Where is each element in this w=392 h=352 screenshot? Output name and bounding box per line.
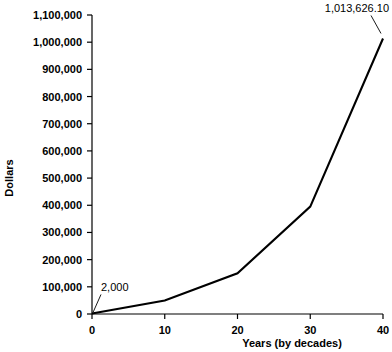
line-chart: 0100,000200,000300,000400,000500,000600,… [0, 0, 392, 352]
y-tick-label: 1,100,000 [33, 9, 82, 21]
start-value-annotation: 2,000 [101, 281, 129, 293]
y-axis-title: Dollars [3, 159, 15, 196]
x-tick-label: 40 [377, 324, 389, 336]
y-tick-label: 1,000,000 [33, 36, 82, 48]
y-tick-label: 800,000 [42, 91, 82, 103]
x-tick-label: 30 [304, 324, 316, 336]
x-tick-label: 0 [89, 324, 95, 336]
x-axis-title: Years (by decades) [242, 337, 342, 349]
y-tick-label: 600,000 [42, 145, 82, 157]
y-tick-label: 700,000 [42, 118, 82, 130]
y-tick-label: 100,000 [42, 281, 82, 293]
y-tick-label: 200,000 [42, 254, 82, 266]
end-value-annotation: 1,013,626.10 [325, 2, 389, 14]
y-tick-label: 0 [76, 308, 82, 320]
y-tick-label: 300,000 [42, 226, 82, 238]
x-tick-label: 20 [231, 324, 243, 336]
x-tick-label: 10 [159, 324, 171, 336]
y-tick-label: 500,000 [42, 172, 82, 184]
chart-container: 0100,000200,000300,000400,000500,000600,… [0, 0, 392, 352]
y-tick-label: 900,000 [42, 63, 82, 75]
y-tick-label: 400,000 [42, 199, 82, 211]
